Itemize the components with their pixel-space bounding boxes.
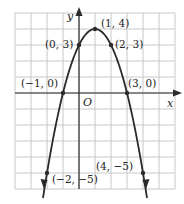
x-axis-label: x	[167, 97, 174, 110]
point-label-neg1-0: (−1, 0)	[21, 77, 58, 89]
point-marker	[109, 43, 113, 47]
point-label-0-3: (0, 3)	[45, 38, 73, 50]
point-marker	[61, 91, 65, 95]
point-label-vertex: (1, 4)	[101, 17, 129, 29]
grid	[15, 13, 175, 189]
point-label-neg2-neg5: (−2, −5)	[52, 173, 98, 185]
point-marker	[141, 171, 145, 175]
y-axis-label: y	[66, 10, 74, 23]
origin-label: O	[83, 96, 92, 109]
point-label-4-neg5: (4, −5)	[96, 160, 133, 172]
point-marker	[93, 27, 97, 31]
point-label-2-3: (2, 3)	[115, 38, 143, 50]
point-marker	[125, 91, 129, 95]
parabola-graph: x y O (1, 4) (0, 3) (2, 3) (−1, 0) (3, 0…	[0, 0, 184, 204]
y-axis-arrow-icon	[76, 7, 83, 16]
point-marker	[45, 171, 49, 175]
point-marker	[77, 43, 81, 47]
point-label-3-0: (3, 0)	[128, 77, 156, 89]
right-arrow-icon	[143, 179, 150, 189]
x-axis-arrow-icon	[173, 90, 182, 97]
left-arrow-icon	[41, 179, 48, 189]
